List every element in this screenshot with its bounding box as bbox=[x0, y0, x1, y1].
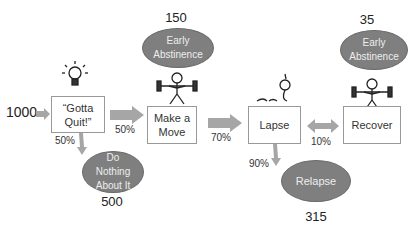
relapse-count: 315 bbox=[300, 209, 332, 224]
input-count: 1000 bbox=[6, 104, 37, 120]
pct-lapse-recover: 10% bbox=[311, 136, 331, 147]
pct-quit-to-move: 50% bbox=[115, 124, 135, 135]
weightlifter-icon bbox=[155, 72, 199, 106]
pct-quit-to-nothing: 50% bbox=[55, 135, 75, 146]
arrow-lapse-to-relapse bbox=[270, 144, 282, 166]
gotta-quit-box: “Gotta Quit!” bbox=[51, 96, 105, 133]
pct-move-to-lapse: 70% bbox=[211, 132, 231, 143]
arrow-quit-to-nothing bbox=[76, 133, 88, 155]
make-move-box: Make a Move bbox=[147, 106, 197, 144]
arrow-lapse-recover bbox=[307, 119, 339, 133]
early-abstinence-1-ellipse: Early Abstinence bbox=[142, 28, 214, 68]
do-nothing-ellipse: Do Nothing About It bbox=[82, 151, 144, 193]
fallen-person-icon bbox=[255, 73, 300, 105]
do-nothing-count: 500 bbox=[96, 194, 128, 209]
lightbulb-icon bbox=[60, 60, 90, 94]
recover-box: Recover bbox=[343, 106, 401, 144]
arrow-quit-to-move bbox=[110, 106, 144, 124]
relapse-ellipse: Relapse bbox=[281, 160, 351, 202]
early-abstinence-1-count: 150 bbox=[160, 10, 192, 25]
early-abstinence-2-ellipse: Early Abstinence bbox=[340, 30, 408, 70]
arrow-move-to-lapse bbox=[208, 114, 242, 132]
early-abstinence-2-count: 35 bbox=[354, 12, 380, 27]
input-arrow bbox=[36, 108, 50, 120]
pct-lapse-to-relapse: 90% bbox=[249, 158, 269, 169]
lapse-box: Lapse bbox=[248, 106, 301, 144]
